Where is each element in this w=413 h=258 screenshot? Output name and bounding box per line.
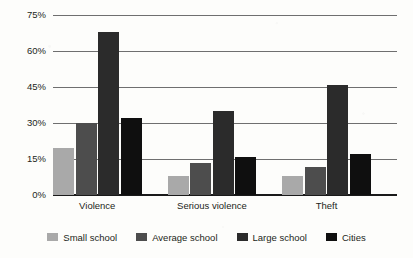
y-axis-tick-label: 60% bbox=[2, 45, 46, 56]
bar-cities-violence bbox=[121, 118, 142, 195]
bar-average-school-serious-violence bbox=[190, 163, 211, 195]
legend-item-average-school[interactable]: Average school bbox=[136, 232, 217, 243]
chart-legend: Small schoolAverage schoolLarge schoolCi… bbox=[0, 229, 413, 245]
legend-item-large-school[interactable]: Large school bbox=[237, 232, 307, 243]
bar-small-school-serious-violence bbox=[168, 176, 189, 195]
y-axis-tick-label: 75% bbox=[2, 9, 46, 20]
legend-swatch-icon bbox=[136, 233, 147, 241]
y-axis-tick-label: 45% bbox=[2, 81, 46, 92]
plot-area bbox=[53, 15, 397, 195]
bar-large-school-serious-violence bbox=[213, 111, 234, 195]
legend-item-small-school[interactable]: Small school bbox=[47, 232, 117, 243]
bar-large-school-theft bbox=[327, 85, 348, 195]
x-axis-label-serious-violence: Serious violence bbox=[152, 200, 272, 211]
x-axis-label-theft: Theft bbox=[267, 200, 387, 211]
bar-average-school-theft bbox=[305, 167, 326, 195]
bar-large-school-violence bbox=[98, 32, 119, 195]
bar-cities-theft bbox=[350, 154, 371, 195]
bar-chart: 0%15%30%45%60%75% Small schoolAverage sc… bbox=[0, 0, 413, 258]
y-axis-tick-label: 30% bbox=[2, 117, 46, 128]
bar-small-school-violence bbox=[53, 148, 74, 195]
legend-label: Small school bbox=[63, 232, 117, 243]
bar-cities-serious-violence bbox=[235, 157, 256, 195]
legend-label: Average school bbox=[152, 232, 217, 243]
bar-average-school-violence bbox=[76, 123, 97, 195]
legend-swatch-icon bbox=[326, 233, 337, 241]
legend-label: Large school bbox=[253, 232, 307, 243]
y-axis-tick-label: 0% bbox=[2, 189, 46, 200]
legend-item-cities[interactable]: Cities bbox=[326, 232, 366, 243]
y-axis-tick-label: 15% bbox=[2, 153, 46, 164]
legend-swatch-icon bbox=[237, 233, 248, 241]
legend-swatch-icon bbox=[47, 233, 58, 241]
bar-small-school-theft bbox=[282, 176, 303, 195]
x-axis-label-violence: Violence bbox=[37, 200, 157, 211]
gridline bbox=[53, 15, 397, 16]
legend-label: Cities bbox=[342, 232, 366, 243]
